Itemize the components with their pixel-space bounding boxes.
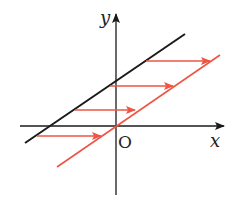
translated-line: [57, 55, 220, 167]
origin-label: O: [118, 132, 132, 152]
y-axis-label: y: [99, 7, 111, 28]
graph: y x O: [0, 0, 239, 208]
x-axis-label: x: [210, 130, 220, 151]
